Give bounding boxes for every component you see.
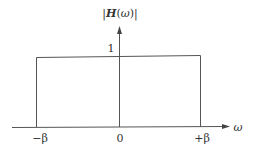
level-one-label: 1 (108, 42, 115, 55)
y-axis-label: |H(ω)| (102, 7, 137, 21)
tick-label-plus-beta: +β (194, 132, 210, 145)
passband-rectangle (37, 56, 201, 128)
x-axis-label: ω (234, 121, 243, 134)
magnitude-response-diagram: |H(ω)| 1 ω −β 0 +β (0, 0, 254, 151)
tick-label-zero: 0 (117, 132, 124, 145)
tick-label-minus-beta: −β (32, 132, 48, 145)
y-axis-arrow-icon (117, 26, 122, 34)
x-axis-arrow-icon (222, 124, 230, 129)
